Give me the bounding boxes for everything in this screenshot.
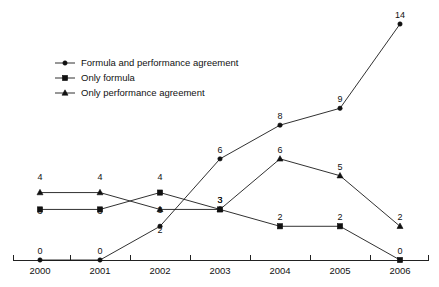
series-line xyxy=(40,159,400,226)
value-label: 8 xyxy=(277,111,282,121)
value-label: 9 xyxy=(337,94,342,104)
line-chart: 0026891433432204433652 20002001200220032… xyxy=(0,0,439,287)
legend-label: Only formula xyxy=(81,72,136,83)
data-point-marker-square xyxy=(397,257,402,262)
data-point-marker-triangle xyxy=(277,156,283,161)
data-point-marker-square xyxy=(157,190,162,195)
data-value-labels: 0026891433432204433652 xyxy=(37,10,405,256)
legend-item-3[interactable]: Only performance agreement xyxy=(55,87,205,98)
chart-canvas: 0026891433432204433652 20002001200220032… xyxy=(0,0,439,287)
value-label: 4 xyxy=(157,172,162,182)
value-label: 6 xyxy=(217,145,222,155)
value-label: 3 xyxy=(97,206,102,216)
data-point-marker-dot xyxy=(38,258,42,262)
value-label: 0 xyxy=(397,246,402,256)
data-point-marker-dot xyxy=(63,61,67,65)
x-axis xyxy=(13,255,428,260)
x-tick-label-2005: 2005 xyxy=(329,265,350,276)
x-tick-label-2003: 2003 xyxy=(209,265,230,276)
value-label: 3 xyxy=(37,206,42,216)
data-point-marker-dot xyxy=(338,106,342,110)
x-tick-label-2002: 2002 xyxy=(149,265,170,276)
value-label: 5 xyxy=(337,162,342,172)
value-label: 4 xyxy=(37,172,42,182)
value-label: 3 xyxy=(157,205,162,215)
data-point-marker-square xyxy=(277,224,282,229)
x-axis-line xyxy=(13,255,428,260)
data-point-marker-triangle xyxy=(62,90,68,95)
value-label: 2 xyxy=(337,212,342,222)
chart-legend: Formula and performance agreementOnly fo… xyxy=(55,57,239,98)
x-tick-label-2004: 2004 xyxy=(269,265,290,276)
data-point-marker-dot xyxy=(98,258,102,262)
value-label: 0 xyxy=(37,246,42,256)
data-point-marker-dot xyxy=(398,22,402,26)
legend-item-1[interactable]: Formula and performance agreement xyxy=(55,57,239,68)
value-label: 2 xyxy=(277,212,282,222)
data-point-marker-dot xyxy=(218,157,222,161)
legend-label: Only performance agreement xyxy=(81,87,205,98)
data-point-marker-triangle xyxy=(97,189,103,194)
value-label: 0 xyxy=(97,246,102,256)
data-point-marker-triangle xyxy=(37,189,43,194)
value-label: 6 xyxy=(277,145,282,155)
value-label: 2 xyxy=(397,212,402,222)
legend-label: Formula and performance agreement xyxy=(81,57,239,68)
legend-item-2[interactable]: Only formula xyxy=(55,72,136,83)
x-axis-tick-labels: 2000200120022003200420052006 xyxy=(29,265,410,276)
x-tick-label-2000: 2000 xyxy=(29,265,50,276)
data-point-marker-square xyxy=(337,224,342,229)
x-tick-label-2001: 2001 xyxy=(89,265,110,276)
data-point-marker-square xyxy=(62,75,67,80)
value-label: 2 xyxy=(157,225,162,235)
value-label: 4 xyxy=(97,172,102,182)
series-3 xyxy=(37,156,403,229)
value-label: 3 xyxy=(217,195,222,205)
data-point-marker-dot xyxy=(278,123,282,127)
value-label: 14 xyxy=(395,10,405,20)
x-tick-label-2006: 2006 xyxy=(389,265,410,276)
data-point-marker-triangle xyxy=(397,223,403,228)
